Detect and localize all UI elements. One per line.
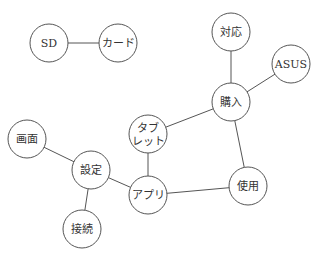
node-apuri: アプリ — [129, 176, 167, 214]
node-tablet: タブレット — [129, 115, 167, 153]
node-label: 接続 — [71, 222, 93, 236]
node-label: 購入 — [220, 95, 242, 109]
node-shiyou: 使用 — [229, 167, 267, 205]
node-asus: ASUS — [272, 45, 310, 83]
node-label: 画面 — [16, 133, 38, 146]
node-setsuzoku: 接続 — [63, 210, 101, 248]
node-label: 対応 — [220, 25, 242, 39]
nodes-layer: SDカード対応ASUS購入タブレット画面設定アプリ使用接続 — [8, 13, 310, 248]
node-label: アプリ — [132, 189, 165, 202]
word-graph-diagram: SDカード対応ASUS購入タブレット画面設定アプリ使用接続 — [0, 0, 321, 256]
node-label: ASUS — [274, 58, 307, 71]
node-label: カード — [102, 37, 135, 50]
node-settei: 設定 — [72, 151, 110, 189]
node-kounyuu: 購入 — [212, 83, 250, 121]
node-label: レット — [132, 135, 165, 148]
node-gamen: 画面 — [8, 120, 46, 158]
node-label: SD — [41, 37, 58, 50]
node-label: 設定 — [80, 163, 102, 177]
node-sd: SD — [30, 24, 68, 62]
node-label: タブ — [137, 121, 159, 135]
node-label: 使用 — [237, 180, 259, 193]
node-card: カード — [99, 24, 137, 62]
node-taiou: 対応 — [212, 13, 250, 51]
